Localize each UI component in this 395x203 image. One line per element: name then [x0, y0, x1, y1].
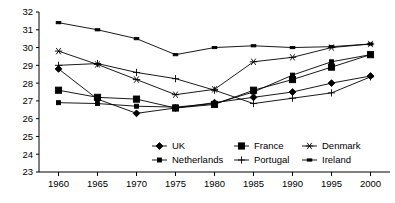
data-point-marker: [251, 45, 256, 47]
data-point-marker: [158, 158, 162, 162]
data-point-marker: [134, 38, 139, 40]
data-point-marker: [96, 102, 100, 106]
data-point-marker: [291, 73, 295, 77]
y-tick-label: 23: [22, 166, 33, 177]
y-tick-label: 24: [22, 149, 33, 160]
x-tick-label: 1990: [282, 178, 303, 189]
legend-item-denmark[interactable]: Denmark: [302, 140, 361, 151]
data-point-marker: [307, 159, 312, 161]
y-tick-label: 31: [22, 24, 33, 35]
chart-canvas: 2324252627282930313219601965197019751980…: [0, 0, 395, 203]
legend-item-portugal[interactable]: Portugal: [234, 154, 289, 165]
data-point-marker: [290, 46, 295, 48]
data-point-marker: [57, 101, 61, 105]
legend-label: Netherlands: [172, 154, 223, 165]
legend-label: UK: [172, 140, 186, 151]
x-tick-label: 1960: [48, 178, 69, 189]
legend-label: Portugal: [254, 154, 289, 165]
data-point-marker: [213, 102, 217, 106]
x-tick-label: 1985: [243, 178, 264, 189]
x-tick-label: 1975: [165, 178, 186, 189]
data-point-marker: [174, 105, 178, 109]
y-tick-label: 27: [22, 95, 33, 106]
data-point-marker: [330, 60, 334, 64]
data-point-marker: [328, 80, 335, 87]
data-point-marker: [133, 110, 140, 117]
data-point-marker: [369, 53, 373, 57]
data-point-marker: [135, 104, 139, 108]
y-tick-label: 28: [22, 78, 33, 89]
legend-label: France: [254, 140, 284, 151]
data-point-marker: [55, 87, 61, 93]
x-tick-label: 2000: [360, 178, 381, 189]
data-point-marker: [250, 94, 257, 101]
data-point-marker: [289, 89, 296, 96]
legend-item-uk[interactable]: UK: [152, 140, 186, 151]
y-tick-label: 29: [22, 60, 33, 71]
legend-label: Ireland: [322, 154, 351, 165]
legend-item-ireland[interactable]: Ireland: [302, 154, 351, 165]
data-point-marker: [212, 46, 217, 48]
legend-label: Denmark: [322, 140, 361, 151]
x-tick-label: 1965: [87, 178, 108, 189]
data-point-marker: [328, 64, 334, 70]
series-ireland: [56, 22, 373, 56]
data-point-marker: [94, 94, 100, 100]
x-tick-label: 1980: [204, 178, 225, 189]
data-point-marker: [238, 143, 244, 149]
x-tick-label: 1995: [321, 178, 342, 189]
data-point-marker: [56, 22, 61, 24]
y-tick-label: 30: [22, 42, 33, 53]
y-tick-label: 26: [22, 113, 33, 124]
data-point-marker: [329, 46, 334, 48]
data-point-marker: [252, 90, 256, 94]
data-point-marker: [368, 43, 373, 45]
data-point-marker: [156, 143, 163, 150]
data-point-marker: [95, 29, 100, 31]
y-tick-label: 25: [22, 131, 33, 142]
line-chart: 2324252627282930313219601965197019751980…: [0, 0, 395, 203]
legend-item-france[interactable]: France: [234, 140, 284, 151]
legend-item-netherlands[interactable]: Netherlands: [152, 154, 223, 165]
data-point-marker: [173, 54, 178, 56]
x-tick-label: 1970: [126, 178, 147, 189]
data-point-marker: [133, 96, 139, 102]
y-tick-label: 32: [22, 6, 33, 17]
